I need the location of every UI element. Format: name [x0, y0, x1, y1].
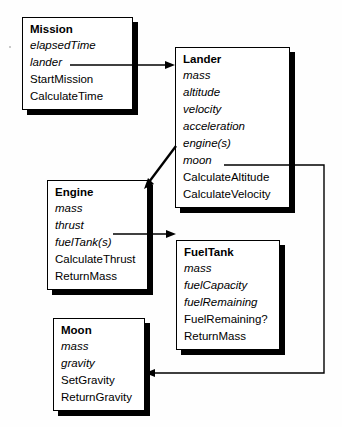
class-attribute-thrust: thrust — [55, 217, 140, 234]
class-attribute-fuelcapacity: fuelCapacity — [184, 277, 272, 294]
class-box-engine[interactable]: Engine mass thrust fuelTank(s) Calculate… — [47, 180, 148, 290]
class-attribute-lander: lander — [30, 54, 125, 71]
class-attribute-altitude: altitude — [183, 84, 282, 101]
class-diagram-canvas: Mission elapsedTime lander StartMission … — [0, 0, 342, 427]
class-attribute-gravity: gravity — [61, 355, 137, 372]
class-box-moon[interactable]: Moon mass gravity SetGravity ReturnGravi… — [53, 318, 145, 411]
class-operation-fueltank-returnmass: ReturnMass — [184, 328, 272, 345]
scan-speck — [9, 46, 11, 48]
arrowhead-icon — [145, 369, 155, 377]
class-title-moon: Moon — [61, 322, 137, 338]
class-operation-returngravity: ReturnGravity — [61, 389, 137, 406]
class-box-fueltank[interactable]: FuelTank mass fuelCapacity fuelRemaining… — [176, 240, 280, 350]
class-title-mission: Mission — [30, 21, 125, 37]
class-attribute-engines: engine(s) — [183, 135, 282, 152]
class-operation-engine-returnmass: ReturnMass — [55, 268, 140, 285]
class-operation-setgravity: SetGravity — [61, 372, 137, 389]
class-attribute-fueltanks: fuelTank(s) — [55, 234, 140, 251]
class-attribute-acceleration: acceleration — [183, 118, 282, 135]
arrowhead-icon — [165, 61, 175, 69]
arrowhead-icon — [166, 230, 176, 238]
class-box-mission[interactable]: Mission elapsedTime lander StartMission … — [22, 17, 133, 110]
class-attribute-velocity: velocity — [183, 101, 282, 118]
class-attribute-elapsedtime: elapsedTime — [30, 37, 125, 54]
class-box-lander[interactable]: Lander mass altitude velocity accelerati… — [175, 47, 290, 208]
class-operation-calculatevelocity: CalculateVelocity — [183, 186, 282, 203]
class-operation-calculatealtitude: CalculateAltitude — [183, 169, 282, 186]
class-title-engine: Engine — [55, 184, 140, 200]
class-attribute-moon-mass: mass — [61, 338, 137, 355]
class-title-lander: Lander — [183, 51, 282, 67]
connector-lander-to-engine — [144, 146, 176, 189]
class-operation-calculatetime: CalculateTime — [30, 88, 125, 105]
class-operation-fuelremaining-query: FuelRemaining? — [184, 311, 272, 328]
class-attribute-fuelremaining: fuelRemaining — [184, 294, 272, 311]
class-attribute-fueltank-mass: mass — [184, 260, 272, 277]
class-title-fueltank: FuelTank — [184, 244, 272, 260]
class-attribute-mass: mass — [183, 67, 282, 84]
class-attribute-engine-mass: mass — [55, 200, 140, 217]
class-attribute-moon: moon — [183, 152, 282, 169]
class-operation-calculatethrust: CalculateThrust — [55, 251, 140, 268]
class-operation-startmission: StartMission — [30, 71, 125, 88]
